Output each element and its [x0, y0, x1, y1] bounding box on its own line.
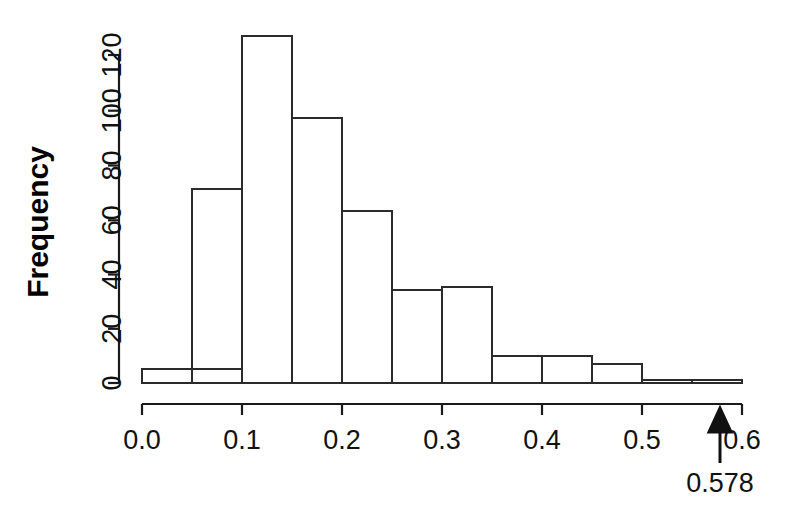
y-tick-label-120: 120: [97, 32, 127, 77]
y-tick-label-20: 20: [97, 314, 127, 344]
x-tick-label-0.5: 0.5: [623, 425, 661, 455]
up-arrow-head-icon: [709, 408, 731, 432]
x-tick-label-0.0: 0.0: [123, 425, 161, 455]
table-row: [292, 118, 342, 383]
table-row: [342, 211, 392, 383]
table-row: [692, 380, 742, 383]
histogram-plot: 120 100 80 60 40 20 0 Frequency: [0, 0, 806, 521]
y-tick-label-100: 100: [97, 88, 127, 133]
annotation-label: 0.578: [686, 468, 754, 498]
y-axis-title: Frequency: [21, 146, 54, 298]
x-tick-label-0.2: 0.2: [323, 425, 361, 455]
y-tick-label-80: 80: [97, 150, 127, 180]
histogram-figure: 120 100 80 60 40 20 0 Frequency: [0, 0, 806, 521]
table-row: [592, 364, 642, 383]
y-tick-label-0: 0: [97, 375, 127, 390]
table-row: [192, 189, 242, 383]
table-row: [642, 380, 692, 383]
histogram-bars: [142, 36, 742, 383]
table-row: [442, 287, 492, 383]
x-tick-label-0.1: 0.1: [223, 425, 261, 455]
y-tick-label-60: 60: [97, 205, 127, 235]
table-row: [392, 290, 442, 383]
x-axis: 0.0 0.1 0.2 0.3 0.4 0.5 0.6: [123, 404, 761, 455]
x-tick-label-0.4: 0.4: [523, 425, 561, 455]
table-row: [542, 356, 592, 383]
y-axis: 120 100 80 60 40 20 0 Frequency: [21, 32, 127, 390]
y-tick-label-40: 40: [97, 259, 127, 289]
table-row: [492, 356, 542, 383]
table-row: [242, 36, 292, 383]
x-tick-label-0.3: 0.3: [423, 425, 461, 455]
